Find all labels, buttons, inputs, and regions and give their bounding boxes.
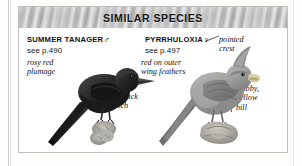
species-name-summer-tanager: SUMMER TANAGER♂ [27,35,110,45]
species-name-pyrrhuloxia: PYRRHULOXIA♀ [145,35,210,45]
page-margin-rule-inner [10,0,11,166]
page-background: SIMILAR SPECIES SUMMER TANAGER♂ see p.49… [0,0,302,166]
species-name-label: PYRRHULOXIA [145,35,203,44]
panel-content: SUMMER TANAGER♂ see p.490 rosy red pluma… [19,28,287,153]
illustration-pyrrhuloxia [159,46,277,153]
page-margin-rule-right [293,0,294,166]
similar-species-panel: SIMILAR SPECIES SUMMER TANAGER♂ see p.49… [18,6,288,153]
male-symbol-icon: ♂ [103,35,110,45]
page-margin-rule-outer [8,0,9,166]
panel-title: SIMILAR SPECIES [19,7,287,28]
species-name-label: SUMMER TANAGER [27,35,103,44]
